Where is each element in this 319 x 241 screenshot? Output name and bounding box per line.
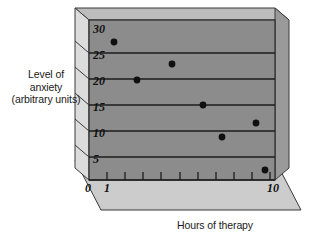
y-tick-label-25: 25: [93, 48, 105, 63]
data-point: [200, 102, 207, 109]
data-point: [169, 61, 176, 68]
wall-right-face: [275, 8, 289, 180]
data-point: [219, 134, 226, 141]
y-tick-label-30: 30: [93, 22, 105, 37]
y-axis-title-line-3: (arbitrary units): [4, 93, 88, 106]
plot-area-wall: [89, 20, 275, 180]
y-tick-label-5: 5: [93, 152, 99, 167]
x-tick-label-1: 1: [104, 181, 110, 196]
data-point: [253, 120, 260, 127]
data-point: [134, 77, 141, 84]
data-point: [262, 167, 269, 174]
y-tick-label-10: 10: [93, 126, 105, 141]
x-axis-title: Hours of therapy: [150, 219, 280, 232]
chart-canvas: [0, 0, 319, 241]
y-tick-label-15: 15: [93, 100, 105, 115]
data-point: [111, 39, 118, 46]
wall-top-face: [75, 8, 289, 20]
y-axis-title-line-2: anxiety: [4, 81, 88, 94]
x-tick-label-0: 0: [85, 181, 91, 196]
y-axis-title: Level of anxiety (arbitrary units): [4, 68, 88, 106]
y-tick-label-20: 20: [93, 74, 105, 89]
x-tick-label-10: 10: [267, 181, 279, 196]
scatter-chart-figure: 30 25 20 15 10 5 0 1 10 Level of anxiety…: [0, 0, 319, 241]
y-axis-title-line-1: Level of: [4, 68, 88, 81]
